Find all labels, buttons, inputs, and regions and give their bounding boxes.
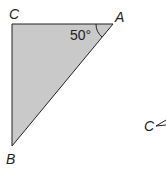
- triangle-diagram: 50° C A B C: [0, 0, 166, 184]
- triangle-abc: [12, 24, 113, 146]
- partial-label-c: C: [144, 118, 155, 134]
- vertex-label-c: C: [9, 6, 20, 22]
- partial-figure-edge: [156, 120, 166, 126]
- vertex-label-b: B: [6, 151, 15, 167]
- vertex-label-a: A: [114, 9, 124, 25]
- angle-a-value: 50°: [70, 27, 91, 43]
